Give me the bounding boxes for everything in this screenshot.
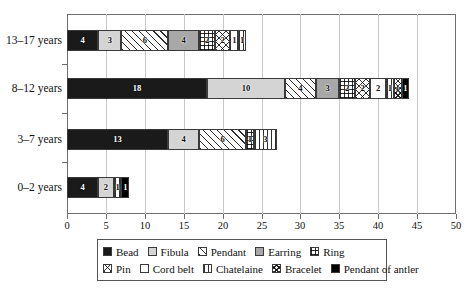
bar-segment-antler[interactable]: 1 bbox=[402, 78, 410, 99]
bar-segment-bead[interactable]: 13 bbox=[67, 129, 168, 150]
x-axis-tick-mark bbox=[339, 214, 340, 219]
x-axis-tick-mark bbox=[145, 214, 146, 219]
legend-label: Pin bbox=[116, 263, 131, 275]
x-axis-tick-mark bbox=[106, 214, 107, 219]
bar-segment-ring[interactable]: 2 bbox=[199, 30, 215, 51]
bar-segment-pendant[interactable]: 6 bbox=[199, 129, 246, 150]
bar-segment-antler[interactable]: 1 bbox=[121, 177, 129, 198]
legend-swatch-icon bbox=[198, 247, 207, 256]
bar-segment-value: 3 bbox=[255, 130, 276, 149]
y-axis-tick-label: 13–17 years bbox=[0, 34, 62, 46]
legend-entry[interactable]: Bracelet bbox=[272, 263, 322, 275]
legend: BeadFibulaPendantEarringRingPinCord belt… bbox=[97, 239, 387, 281]
bar-row: 181043222111 bbox=[0, 78, 473, 99]
bar-segment-ring[interactable]: 2 bbox=[339, 78, 355, 99]
legend-label: Bead bbox=[116, 246, 139, 258]
bar-segment-bracelet[interactable]: 1 bbox=[394, 78, 402, 99]
y-axis-tick-label: 3–7 years bbox=[0, 133, 62, 145]
bar-segment-value: 2 bbox=[200, 31, 214, 50]
bar-row: 134613 bbox=[0, 129, 473, 150]
x-axis-tick-mark bbox=[262, 214, 263, 219]
bar-segment-chatelaine[interactable]: 3 bbox=[254, 129, 277, 150]
x-axis-tick-mark bbox=[67, 214, 68, 219]
bar-segment-value: 1 bbox=[395, 79, 401, 98]
bar-segment-value: 2 bbox=[99, 178, 113, 197]
bar-segment-cordbelt[interactable]: 1 bbox=[230, 30, 238, 51]
bar-segment-earring[interactable]: 3 bbox=[316, 78, 339, 99]
bar-segment-value: 1 bbox=[115, 178, 121, 197]
bar-segment-value: 10 bbox=[208, 79, 284, 98]
bar-segment-value: 2 bbox=[340, 79, 354, 98]
x-axis-tick-label: 0 bbox=[52, 220, 82, 231]
y-axis-tick-label: 8–12 years bbox=[0, 82, 62, 94]
bar-segment-bead[interactable]: 4 bbox=[67, 30, 98, 51]
legend-entry[interactable]: Cord belt bbox=[140, 263, 194, 275]
bar-row: 43642211 bbox=[0, 30, 473, 51]
legend-label: Pendant of antler bbox=[344, 263, 419, 275]
y-axis-tick-mark bbox=[62, 64, 67, 65]
bar-segment-earring[interactable]: 4 bbox=[168, 30, 199, 51]
bar-segment-chatelaine[interactable]: 1 bbox=[114, 177, 122, 198]
bar-segment-ring[interactable]: 1 bbox=[246, 129, 254, 150]
legend-label: Ring bbox=[323, 246, 344, 258]
bar-segment-cordbelt[interactable]: 2 bbox=[370, 78, 386, 99]
bar-segment-value: 2 bbox=[371, 79, 385, 98]
bar-segment-value: 4 bbox=[68, 178, 97, 197]
bar-segment-fibula[interactable]: 4 bbox=[168, 129, 199, 150]
bar-segment-chatelaine[interactable]: 1 bbox=[386, 78, 394, 99]
legend-entry[interactable]: Pendant of antler bbox=[331, 263, 419, 275]
bar-segment-value: 4 bbox=[286, 79, 315, 98]
bar-segment-bead[interactable]: 18 bbox=[67, 78, 207, 99]
legend-entry[interactable]: Earring bbox=[255, 246, 301, 258]
bar-segment-pin[interactable]: 2 bbox=[355, 78, 371, 99]
bar-segment-value: 13 bbox=[68, 130, 167, 149]
bar-segment-value: 3 bbox=[317, 79, 338, 98]
legend-swatch-icon bbox=[148, 247, 157, 256]
bar-segment-value: 1 bbox=[231, 31, 237, 50]
bar-segment-value: 6 bbox=[122, 31, 167, 50]
bar-segment-value: 1 bbox=[239, 31, 245, 50]
legend-entry[interactable]: Ring bbox=[310, 246, 344, 258]
legend-entry[interactable]: Chatelaine bbox=[203, 263, 263, 275]
bar-segment-chatelaine[interactable]: 1 bbox=[238, 30, 246, 51]
x-axis-tick-label: 40 bbox=[363, 220, 393, 231]
bar-segment-fibula[interactable]: 10 bbox=[207, 78, 285, 99]
x-axis-tick-label: 50 bbox=[441, 220, 471, 231]
x-axis-tick-mark bbox=[223, 214, 224, 219]
bar-segment-fibula[interactable]: 3 bbox=[98, 30, 121, 51]
legend-entry[interactable]: Pin bbox=[103, 263, 131, 275]
legend-label: Chatelaine bbox=[216, 263, 263, 275]
y-axis-tick-label: 0–2 years bbox=[0, 181, 62, 193]
bar-segment-value: 1 bbox=[247, 130, 253, 149]
legend-row: PinCord beltChatelaineBraceletPendant of… bbox=[103, 260, 381, 277]
bar-segment-value: 3 bbox=[99, 31, 120, 50]
bar-segment-fibula[interactable]: 2 bbox=[98, 177, 114, 198]
x-axis-tick-label: 25 bbox=[247, 220, 277, 231]
legend-swatch-icon bbox=[255, 247, 264, 256]
y-axis-tick-mark bbox=[62, 113, 67, 114]
bar-segment-value: 18 bbox=[68, 79, 206, 98]
bar-segment-value: 1 bbox=[122, 178, 128, 197]
legend-entry[interactable]: Fibula bbox=[148, 246, 189, 258]
legend-swatch-icon bbox=[103, 264, 112, 273]
legend-label: Earring bbox=[268, 246, 301, 258]
legend-label: Pendant bbox=[211, 246, 246, 258]
x-axis-tick-label: 10 bbox=[130, 220, 160, 231]
legend-entry[interactable]: Pendant bbox=[198, 246, 246, 258]
x-axis-tick-mark bbox=[300, 214, 301, 219]
x-axis-tick-mark bbox=[184, 214, 185, 219]
legend-label: Bracelet bbox=[285, 263, 322, 275]
bar-segment-pendant[interactable]: 6 bbox=[121, 30, 168, 51]
x-axis-tick-mark bbox=[456, 214, 457, 219]
bar-segment-value: 2 bbox=[356, 79, 370, 98]
legend-swatch-icon bbox=[272, 264, 281, 273]
bar-segment-pin[interactable]: 2 bbox=[215, 30, 231, 51]
bar-segment-value: 4 bbox=[169, 130, 198, 149]
legend-swatch-icon bbox=[310, 247, 319, 256]
bar-segment-bead[interactable]: 4 bbox=[67, 177, 98, 198]
bar-segment-pendant[interactable]: 4 bbox=[285, 78, 316, 99]
bar-segment-value: 4 bbox=[169, 31, 198, 50]
x-axis-tick-label: 35 bbox=[324, 220, 354, 231]
legend-entry[interactable]: Bead bbox=[103, 246, 139, 258]
bar-segment-value: 6 bbox=[200, 130, 245, 149]
